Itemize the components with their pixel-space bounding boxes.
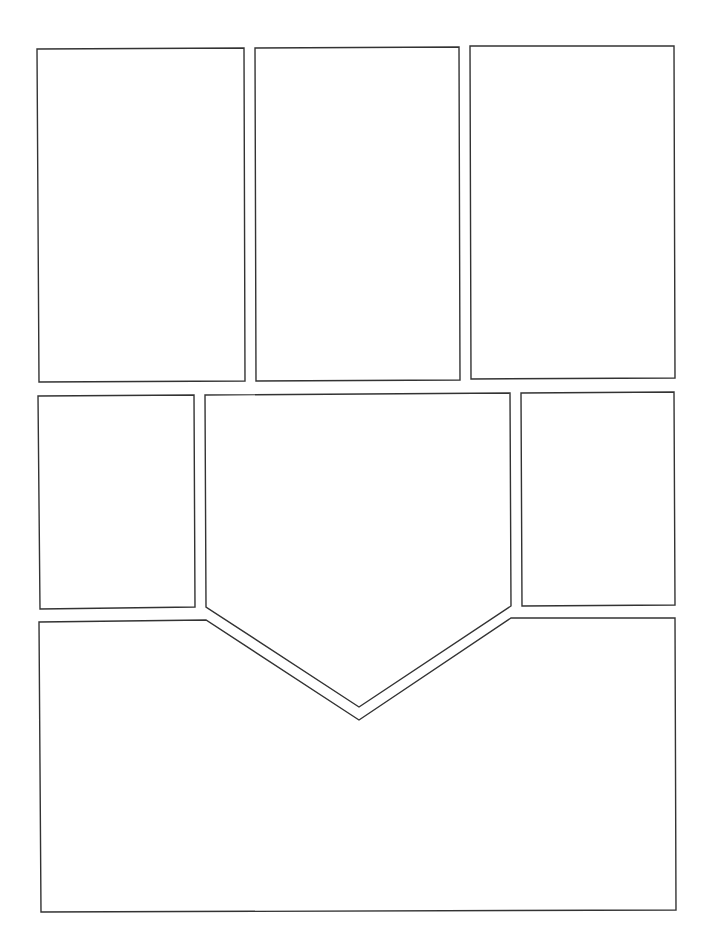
panel-top-left <box>37 48 245 382</box>
comic-page <box>0 0 712 944</box>
panel-middle-left <box>38 395 195 609</box>
panel-top-right <box>470 46 675 379</box>
panel-middle-right <box>521 392 675 606</box>
panel-top-middle <box>255 47 460 381</box>
